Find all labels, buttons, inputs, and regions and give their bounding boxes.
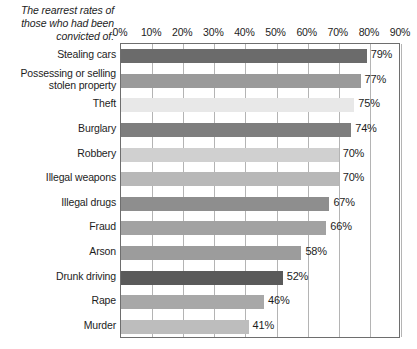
category-label: Murder xyxy=(0,320,116,332)
chart-title: The rearrest rates of those who had been… xyxy=(6,4,114,43)
x-tick-70pct: 70% xyxy=(328,26,348,38)
x-tick-10pct: 10% xyxy=(141,26,161,38)
value-label: 67% xyxy=(333,196,354,208)
bar-chart: The rearrest rates of those who had been… xyxy=(0,0,417,349)
category-label: Stealing cars xyxy=(0,49,116,61)
value-label: 58% xyxy=(305,245,326,257)
x-tick-0pct: 0% xyxy=(113,26,128,38)
x-tick-50pct: 50% xyxy=(265,26,285,38)
value-label: 52% xyxy=(287,270,308,282)
value-label: 70% xyxy=(343,171,364,183)
x-tick-90pct: 90% xyxy=(390,26,410,38)
category-label: Fraud xyxy=(0,221,116,233)
x-tick-30pct: 30% xyxy=(203,26,223,38)
value-label: 79% xyxy=(371,48,392,60)
category-axis-labels: Stealing carsPossessing or selling stole… xyxy=(0,43,116,338)
value-label: 41% xyxy=(253,319,274,331)
x-tick-80pct: 80% xyxy=(359,26,379,38)
category-label: Rape xyxy=(0,295,116,307)
category-label: Drunk driving xyxy=(0,271,116,283)
category-label: Burglary xyxy=(0,123,116,135)
x-tick-60pct: 60% xyxy=(296,26,316,38)
value-label: 75% xyxy=(358,97,379,109)
x-tick-20pct: 20% xyxy=(172,26,192,38)
x-axis-tick-labels: 0%10%20%30%40%50%60%70%80%90% xyxy=(120,26,400,40)
bar-value-labels: 79%77%75%74%70%70%67%66%58%52%46%41% xyxy=(120,43,417,338)
category-label: Arson xyxy=(0,246,116,258)
value-label: 46% xyxy=(268,294,289,306)
x-tick-40pct: 40% xyxy=(234,26,254,38)
category-label: Theft xyxy=(0,98,116,110)
category-label: Possessing or selling stolen property xyxy=(0,68,116,91)
value-label: 70% xyxy=(343,147,364,159)
value-label: 77% xyxy=(365,73,386,85)
value-label: 74% xyxy=(355,122,376,134)
value-label: 66% xyxy=(330,220,351,232)
category-label: Illegal weapons xyxy=(0,172,116,184)
category-label: Illegal drugs xyxy=(0,197,116,209)
category-label: Robbery xyxy=(0,148,116,160)
